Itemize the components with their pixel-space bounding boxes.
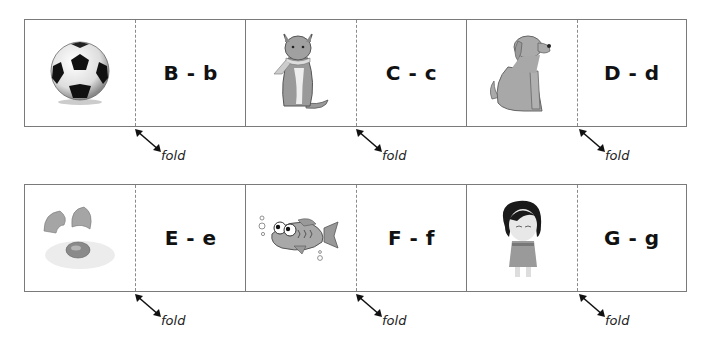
fold-label: fold <box>382 148 406 163</box>
flashcard-d: D - d <box>466 20 686 126</box>
double-arrow-icon <box>134 293 164 319</box>
flashcard-g: G - g <box>466 185 686 291</box>
fold-label: fold <box>605 148 629 163</box>
fold-label: fold <box>382 313 406 328</box>
flashcard-strip-bottom: E - e F - f <box>24 184 687 292</box>
fold-marker: fold <box>355 293 415 333</box>
fold-marker: fold <box>355 128 415 168</box>
flashcard-e: E - e <box>25 185 245 291</box>
double-arrow-icon <box>578 293 608 319</box>
fold-marker: fold <box>578 128 638 168</box>
letter-label: B - b <box>136 20 245 126</box>
fold-marker: fold <box>134 293 194 333</box>
picture-panel <box>467 20 578 126</box>
flashcard-c: C - c <box>245 20 465 126</box>
double-arrow-icon <box>578 128 608 154</box>
dog-icon <box>484 31 560 115</box>
flashcard-b: B - b <box>25 20 245 126</box>
cat-icon <box>266 28 336 118</box>
picture-panel <box>25 185 136 291</box>
letter-label: G - g <box>578 185 686 291</box>
double-arrow-icon <box>355 128 385 154</box>
letter-label: F - f <box>357 185 465 291</box>
flashcard-strip-top: B - b C - c <box>24 19 687 127</box>
letter-label: E - e <box>136 185 245 291</box>
letter-label: C - c <box>357 20 465 126</box>
soccer-ball-icon <box>47 40 113 106</box>
flashcard-f: F - f <box>245 185 465 291</box>
fold-marker: fold <box>134 128 194 168</box>
double-arrow-icon <box>355 293 385 319</box>
fold-label: fold <box>161 313 185 328</box>
letter-label: D - d <box>578 20 686 126</box>
fish-icon <box>258 214 344 262</box>
girl-icon <box>497 197 547 279</box>
fold-marker: fold <box>578 293 638 333</box>
picture-panel <box>25 20 136 126</box>
fold-label: fold <box>605 313 629 328</box>
picture-panel <box>467 185 578 291</box>
picture-panel <box>246 185 357 291</box>
fold-label: fold <box>161 148 185 163</box>
picture-panel <box>246 20 357 126</box>
double-arrow-icon <box>134 128 164 154</box>
egg-icon <box>42 203 118 273</box>
